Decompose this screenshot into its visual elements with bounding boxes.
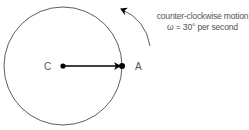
center-point — [60, 63, 65, 68]
point-a — [119, 63, 125, 69]
angular-velocity-text: ω = 30° per second — [156, 22, 249, 33]
motion-direction-text: counter-clockwise motion — [156, 11, 249, 22]
center-label: C — [44, 61, 51, 72]
point-a-label: A — [135, 61, 142, 72]
motion-annotation: counter-clockwise motion ω = 30° per sec… — [156, 11, 249, 33]
rotation-direction-arrow — [121, 9, 150, 46]
